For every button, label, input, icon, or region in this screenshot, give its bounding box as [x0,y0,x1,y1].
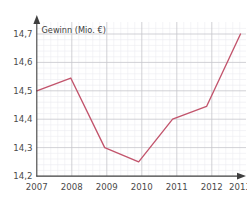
y-tick-label-14-7: 14,7 [13,29,32,39]
y-tick-label-14-5: 14,5 [13,86,32,96]
y-tick-label-14-3: 14,3 [13,143,32,153]
x-tick-label-2011: 2011 [166,182,188,192]
y-tick-label-14-6: 14,6 [13,57,32,67]
line-chart-figure: 14,7 14,6 14,5 14,4 14,3 14,2 2007 2008 … [0,0,247,197]
x-tick-label-2008: 2008 [61,182,83,192]
x-tick-label-2010: 2010 [131,182,153,192]
x-tick-label-2013: 2013 [229,182,247,192]
x-tick-label-2012: 2012 [201,182,223,192]
y-tick-label-14-2: 14,2 [13,171,32,181]
chart-canvas: 14,7 14,6 14,5 14,4 14,3 14,2 2007 2008 … [0,0,247,197]
x-tick-label-2007: 2007 [26,182,48,192]
y-axis-caption: Gewinn (Mio. €) [42,25,106,35]
y-tick-label-14-4: 14,4 [13,114,32,124]
x-tick-label-2009: 2009 [96,182,118,192]
